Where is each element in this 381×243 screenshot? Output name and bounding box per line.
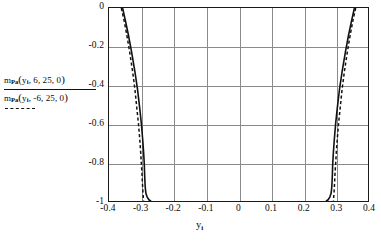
x-axis-title-subscript: i: [201, 224, 203, 232]
legend-solid-close-paren: ): [61, 73, 65, 85]
legend-dashed-args: , -6, 25, 0: [29, 93, 65, 103]
legend-entry-dashed: mPa(yi, -6, 25, 0): [4, 92, 104, 105]
x-tick-label: -0.3: [126, 203, 156, 213]
legend-divider-rule: [4, 89, 96, 90]
x-tick-label: 0.1: [256, 203, 286, 213]
x-tick-label: 0.4: [354, 203, 381, 213]
x-tick-label: 0.3: [321, 203, 351, 213]
x-tick-label: -0.2: [158, 203, 188, 213]
curve-dashed-left: [121, 8, 143, 201]
y-tick-label: 0: [78, 1, 104, 11]
legend-dashed-sample-line: [5, 108, 35, 109]
legend-solid-args: , 6, 25, 0: [29, 75, 62, 85]
x-tick-label: 0: [224, 203, 254, 213]
plot-inner: [109, 8, 368, 201]
chart-figure: mPa(yi, 6, 25, 0) mPa(yi, -6, 25, 0) 0-0…: [0, 0, 381, 243]
curve-layer: [109, 8, 368, 201]
plot-frame: [108, 7, 369, 202]
x-axis-title: yi: [196, 219, 203, 232]
x-tick-label: 0.2: [289, 203, 319, 213]
legend-dashed-close-paren: ): [64, 91, 68, 103]
curve-dashed-right: [333, 8, 355, 201]
y-tick-label: -0.8: [78, 157, 104, 167]
y-tick-label: -0.6: [78, 118, 104, 128]
y-tick-label: -0.4: [78, 79, 104, 89]
x-tick-label: -0.1: [191, 203, 221, 213]
x-tick-label: -0.4: [93, 203, 123, 213]
y-tick-label: -0.2: [78, 40, 104, 50]
